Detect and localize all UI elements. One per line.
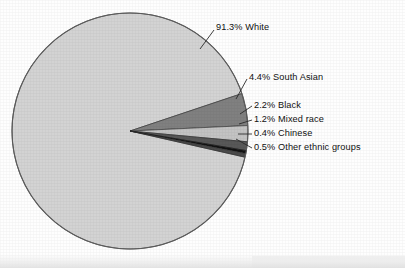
pie-label-black: 2.2% Black — [254, 100, 301, 111]
pie-label-mixed-race: 1.2% Mixed race — [254, 114, 324, 125]
pie-label-white: 91.3% White — [216, 22, 269, 33]
pie-label-chinese: 0.4% Chinese — [254, 128, 312, 139]
pie-label-other-ethnic-groups: 0.5% Other ethnic groups — [254, 142, 361, 153]
pie-label-south-asian: 4.4% South Asian — [249, 72, 323, 83]
pie-chart-figure: 91.3% White 4.4% South Asian 2.2% Black … — [0, 0, 405, 268]
pie-chart-canvas — [0, 0, 405, 268]
